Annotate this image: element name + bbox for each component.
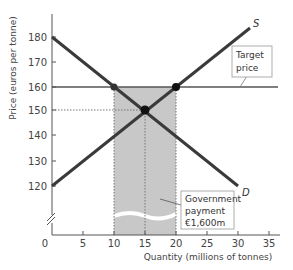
svg-text:15: 15 bbox=[139, 238, 152, 249]
svg-text:35: 35 bbox=[263, 238, 276, 249]
svg-text:170: 170 bbox=[28, 57, 47, 68]
target-price-annotation: Target price bbox=[232, 46, 272, 87]
svg-text:price: price bbox=[236, 63, 259, 73]
x-tick-labels: 0 5 10 15 20 25 30 35 bbox=[42, 238, 276, 249]
point-10-160 bbox=[111, 84, 118, 91]
svg-text:130: 130 bbox=[28, 156, 47, 167]
svg-text:Target: Target bbox=[235, 50, 264, 60]
svg-text:140: 140 bbox=[28, 130, 47, 141]
supply-label: S bbox=[253, 18, 260, 29]
svg-text:5: 5 bbox=[80, 238, 86, 249]
svg-text:120: 120 bbox=[28, 181, 47, 192]
demand-label: D bbox=[242, 187, 250, 198]
y-axis-title: Price (euros per tonne) bbox=[8, 16, 18, 119]
y-ticks bbox=[52, 37, 56, 186]
svg-text:30: 30 bbox=[232, 238, 245, 249]
svg-text:0: 0 bbox=[42, 238, 48, 249]
point-15-150 bbox=[141, 106, 150, 115]
svg-text:160: 160 bbox=[28, 82, 47, 93]
price-support-chart: 180 170 160 150 140 130 120 0 5 10 15 20… bbox=[0, 0, 293, 270]
x-axis-title: Quantity (millions of tonnes) bbox=[144, 252, 273, 262]
svg-text:150: 150 bbox=[28, 105, 47, 116]
point-20-160 bbox=[172, 83, 180, 91]
svg-text:10: 10 bbox=[108, 238, 121, 249]
svg-text:payment: payment bbox=[185, 206, 226, 216]
svg-text:180: 180 bbox=[28, 32, 47, 43]
svg-text:Government: Government bbox=[185, 194, 242, 204]
y-tick-labels: 180 170 160 150 140 130 120 bbox=[28, 32, 47, 192]
svg-text:25: 25 bbox=[201, 238, 214, 249]
x-ticks bbox=[83, 231, 269, 235]
svg-text:20: 20 bbox=[170, 238, 183, 249]
svg-text:€1,600m: €1,600m bbox=[185, 218, 225, 228]
